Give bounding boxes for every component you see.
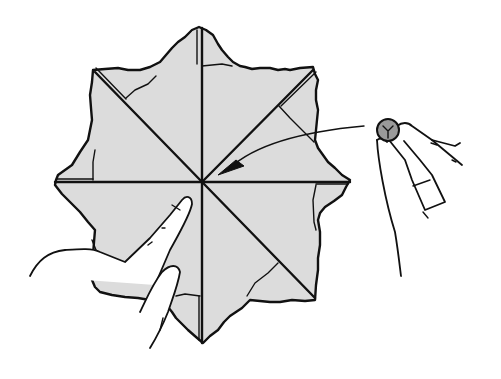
folded-paper-star-illustration [0, 0, 501, 379]
right-hand-with-coin [377, 119, 462, 276]
illustration-canvas: Line drawing of a square sheet folded in… [0, 0, 501, 379]
